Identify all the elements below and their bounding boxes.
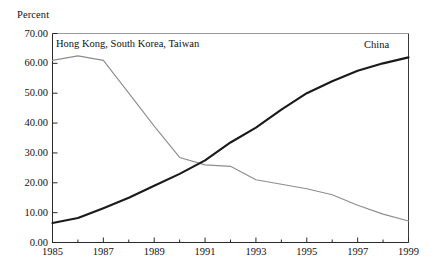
x-tick-label: 1995	[282, 246, 332, 258]
x-tick-label: 1991	[180, 246, 230, 258]
series-line-hong-kong-south-korea-taiwan	[53, 56, 409, 221]
y-tick-label: 20.00	[2, 177, 48, 188]
y-tick-label: 30.00	[2, 147, 48, 158]
x-tick-label: 1997	[333, 246, 383, 258]
axes-group	[53, 34, 409, 243]
series-label-china: China	[364, 39, 389, 51]
x-tick-label: 1987	[78, 246, 128, 258]
data-series-group	[53, 56, 409, 223]
x-tick-label: 1993	[231, 246, 281, 258]
y-tick-label: 70.00	[2, 28, 48, 39]
y-tick-label: 60.00	[2, 57, 48, 68]
series-line-china	[53, 57, 409, 223]
y-tick-label: 10.00	[2, 207, 48, 218]
y-tick-label: 40.00	[2, 117, 48, 128]
x-tick-label: 1985	[28, 246, 78, 258]
x-tick-label: 1989	[129, 246, 179, 258]
tick-marks-group	[53, 34, 409, 243]
y-tick-label: 50.00	[2, 87, 48, 98]
series-label-hong-kong-south-korea-taiwan: Hong Kong, South Korea, Taiwan	[56, 38, 199, 50]
x-tick-label: 1999	[384, 246, 432, 258]
chart-container: Percent 0.0010.0020.0030.0040.0050.0060.…	[0, 0, 432, 279]
